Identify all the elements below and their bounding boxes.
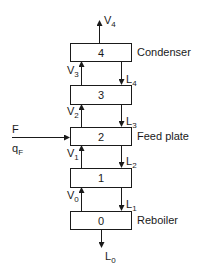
plate-4-condenser: 4 — [70, 43, 132, 62]
label-l2: L2 — [126, 156, 137, 167]
plate-number: 2 — [98, 131, 104, 143]
feed-plate-label: Feed plate — [137, 131, 189, 142]
plate-3: 3 — [70, 85, 132, 105]
plate-2-feed: 2 — [70, 127, 132, 146]
label-v1: V1 — [67, 148, 79, 159]
label-v0: V0 — [67, 190, 79, 201]
condenser-label: Condenser — [137, 47, 191, 58]
label-l3: L3 — [126, 116, 137, 127]
label-v4: V4 — [104, 15, 116, 26]
feed-label: F — [12, 124, 19, 135]
label-v2: V2 — [67, 106, 79, 117]
plate-number: 1 — [98, 172, 104, 184]
reboiler-label: Reboiler — [137, 215, 178, 226]
plate-number: 3 — [98, 89, 104, 101]
plate-0-reboiler: 0 — [70, 211, 132, 230]
distillation-column-diagram: 4 3 2 1 0 Condenser Feed plate Reboiler … — [0, 0, 203, 273]
plate-1: 1 — [70, 168, 132, 188]
plate-number: 0 — [98, 215, 104, 227]
label-l4: L4 — [126, 74, 137, 85]
label-l1: L1 — [126, 199, 137, 210]
label-l0: L0 — [105, 251, 116, 262]
plate-number: 4 — [98, 47, 104, 59]
label-v3: V3 — [67, 65, 79, 76]
feed-quality-label: qF — [12, 143, 23, 154]
